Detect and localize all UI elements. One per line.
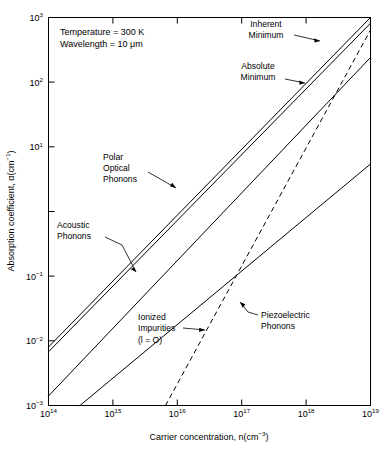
svg-text:10−1: 10−1 xyxy=(26,270,44,282)
annotation-polar-optical-phonons: Polar Optical Phonons xyxy=(103,152,176,188)
annotation-absolute-minimum: Absolute Minimum xyxy=(241,61,305,85)
xtick-label-1e16: 10 xyxy=(169,409,179,419)
ionized-label-line3: (l = O) xyxy=(138,335,162,345)
polar-optical-label-line2: Optical xyxy=(103,163,130,173)
svg-text:1014: 1014 xyxy=(40,407,57,419)
curve-piezoelectric-phonons xyxy=(80,164,371,406)
polar-optical-label-line3: Phonons xyxy=(103,174,137,184)
ionized-label-line1: Ionized xyxy=(138,312,166,322)
svg-text:1017: 1017 xyxy=(233,407,250,419)
svg-text:1016: 1016 xyxy=(169,407,186,419)
svg-text:1015: 1015 xyxy=(104,407,121,419)
ionized-arrowhead xyxy=(199,328,205,332)
ionized-label-line2: Impurities xyxy=(138,323,175,333)
curve-ionized-impurities xyxy=(166,30,371,406)
svg-text:1018: 1018 xyxy=(298,407,315,419)
ytick-label-0-1: 10 xyxy=(26,272,36,282)
y-axis-tick-labels: 103 102 101 10−1 10−2 10−3 xyxy=(26,11,44,411)
svg-text:102: 102 xyxy=(30,76,44,88)
piezoelectric-arrowhead xyxy=(240,302,245,308)
ytick-label-0-01: 10 xyxy=(26,336,36,346)
condition-wavelength: Wavelength = 10 μm xyxy=(60,39,143,49)
y-axis-title: Absorption coefficient, α(cm−1) xyxy=(4,150,16,271)
plot-frame xyxy=(49,18,371,406)
annotation-acoustic-phonons: Acoustic Phonons xyxy=(57,220,136,272)
xtick-label-1e19: 10 xyxy=(362,409,372,419)
acoustic-label-line1: Acoustic xyxy=(57,220,90,230)
inherent-minimum-label-line2: Minimum xyxy=(249,30,284,40)
annotation-inherent-minimum: Inherent Minimum xyxy=(249,19,320,43)
inherent-minimum-label-line1: Inherent xyxy=(250,19,282,29)
svg-text:103: 103 xyxy=(30,11,44,23)
conditions-annotation: Temperature = 300 K Wavelength = 10 μm xyxy=(60,27,144,49)
x-axis-ticks xyxy=(49,18,371,406)
xtick-label-1e15: 10 xyxy=(104,409,114,419)
x-axis-tick-labels: 1014 1015 1016 1017 1018 1019 xyxy=(40,407,379,419)
xtick-label-1e18: 10 xyxy=(298,409,308,419)
curve-polar-optical-phonons xyxy=(49,58,371,397)
ytick-label-1000: 10 xyxy=(30,13,40,23)
ytick-label-0-001: 10 xyxy=(26,401,36,411)
annotation-ionized-impurities: Ionized Impurities (l = O) xyxy=(138,312,205,345)
xtick-label-1e14: 10 xyxy=(40,409,50,419)
condition-temperature: Temperature = 300 K xyxy=(60,27,144,37)
polar-optical-arrowhead xyxy=(170,183,176,188)
svg-text:101: 101 xyxy=(30,141,44,153)
polar-optical-label-line1: Polar xyxy=(103,152,123,162)
piezoelectric-label-line1: Piezoelectric xyxy=(261,310,310,320)
x-axis-title: Carrier concentration, n(cm−3) xyxy=(149,430,268,442)
svg-text:1019: 1019 xyxy=(362,407,379,419)
ytick-label-10: 10 xyxy=(30,142,40,152)
absolute-minimum-label-line2: Minimum xyxy=(241,72,276,82)
acoustic-arrowhead xyxy=(130,268,136,273)
ytick-label-100: 10 xyxy=(30,78,40,88)
xtick-label-1e17: 10 xyxy=(233,409,243,419)
svg-text:10−2: 10−2 xyxy=(26,335,44,347)
absolute-minimum-label-line1: Absolute xyxy=(241,61,275,71)
acoustic-label-line2: Phonons xyxy=(57,231,91,241)
piezoelectric-label-line2: Phonons xyxy=(261,321,295,331)
annotation-piezoelectric-phonons: Piezoelectric Phonons xyxy=(240,302,310,331)
chart-figure: 103 102 101 10−1 10−2 10−3 1014 xyxy=(0,0,389,457)
curve-absolute-minimum xyxy=(49,23,371,352)
